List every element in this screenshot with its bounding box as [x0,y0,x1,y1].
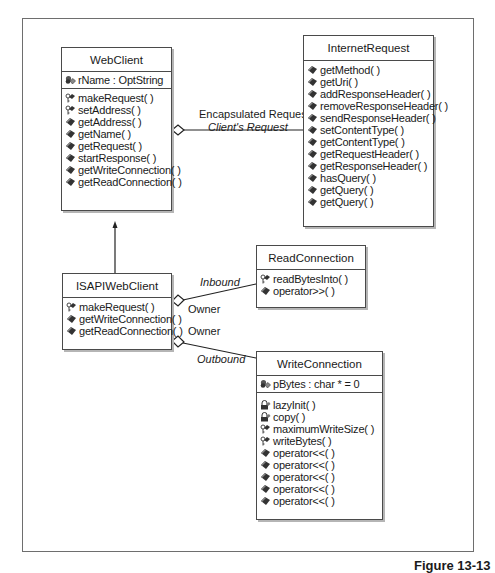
operation-row: setContentType( ) [307,124,430,136]
protected-operation-icon [66,302,77,312]
operation-row: operator<<( ) [260,459,379,471]
operation-row: getRequest( ) [65,140,168,152]
class-writeconnection[interactable]: WriteConnection pBytes : char * = 0 lazy… [256,351,383,520]
operation-row: readBytesInto( ) [260,273,362,285]
class-name: ISAPIWebClient [63,274,171,298]
operation-compartment: readBytesInto( ) operator>>( ) [257,270,365,300]
public-operation-icon [307,65,318,75]
class-readconnection[interactable]: ReadConnection readBytesInto( ) operator… [256,245,366,308]
operation-row: removeResponseHeader( ) [307,100,430,112]
operation-row: hasQuery( ) [307,172,430,184]
public-operation-icon [307,89,318,99]
public-operation-icon [307,137,318,147]
public-operation-icon [307,101,318,111]
public-operation-icon [66,326,77,336]
public-operation-icon [307,77,318,87]
operation-row: sendResponseHeader( ) [307,112,430,124]
public-operation-icon [307,149,318,159]
operation-row: getQuery( ) [307,184,430,196]
operation-row: getReadConnection( ) [65,176,168,188]
operation-row: operator<<( ) [260,483,379,495]
operation-row: copy( ) [260,411,379,423]
figure-caption: Figure 13-13 [414,558,491,573]
attribute-compartment: pBytes : char * = 0 [257,376,382,393]
public-operation-icon [65,141,76,151]
operation-row: getQuery( ) [307,196,430,208]
operation-row: getReadConnection( ) [66,325,168,337]
operation-row: getName( ) [65,128,168,140]
public-operation-icon [260,460,271,470]
public-operation-icon [307,113,318,123]
public-operation-icon [65,165,76,175]
operation-row: getAddress( ) [65,116,168,128]
public-operation-icon [65,153,76,163]
class-webclient[interactable]: WebClient rName : OptString makeRequest(… [61,47,172,211]
private-operation-icon [260,400,271,410]
protected-operation-icon [260,424,271,434]
operation-row: operator<<( ) [260,495,379,507]
operation-row: startResponse( ) [65,152,168,164]
inbound-owner-label: Owner [188,303,220,315]
protected-operation-icon [260,436,271,446]
class-name: InternetRequest [304,36,433,61]
private-attribute-icon [260,379,271,389]
class-isapiwebclient[interactable]: ISAPIWebClient makeRequest( ) getWriteCo… [62,273,172,350]
operation-row: getUri( ) [307,76,430,88]
protected-operation-icon [65,105,76,115]
outbound-role-label: Outbound [197,353,245,365]
protected-operation-icon [260,274,271,284]
public-operation-icon [260,286,271,296]
outbound-owner-label: Owner [188,325,220,337]
operation-row: getMethod( ) [307,64,430,76]
public-operation-icon [65,129,76,139]
class-name: ReadConnection [257,246,365,270]
operation-row: writeBytes( ) [260,435,379,447]
operation-row: getWriteConnection( ) [66,313,168,325]
operation-row: addResponseHeader( ) [307,88,430,100]
public-operation-icon [65,117,76,127]
operation-row: operator>>( ) [260,285,362,297]
public-operation-icon [307,173,318,183]
inbound-role-label: Inbound [200,276,240,288]
class-name: WebClient [62,48,171,72]
operation-row: getResponseHeader( ) [307,160,430,172]
public-operation-icon [307,197,318,207]
class-internetrequest[interactable]: InternetRequest getMethod( ) getUri( ) a… [303,35,434,227]
private-attribute-icon [65,75,76,85]
association-role-label: Client's Request [208,121,288,133]
operation-row: maximumWriteSize( ) [260,423,379,435]
operation-compartment: makeRequest( ) getWriteConnection( ) get… [63,298,171,340]
public-operation-icon [66,314,77,324]
operation-row: getRequestHeader( ) [307,148,430,160]
public-operation-icon [260,472,271,482]
protected-operation-icon [65,93,76,103]
operation-row: lazyInit( ) [260,399,379,411]
operation-compartment: getMethod( ) getUri( ) addResponseHeader… [304,61,433,211]
operation-row: getContentType( ) [307,136,430,148]
inheritance-arrow [113,221,118,273]
operation-compartment: lazyInit( ) copy( ) maximumWriteSize( ) … [257,393,382,510]
public-operation-icon [307,125,318,135]
public-operation-icon [65,177,76,187]
operation-row: getWriteConnection( ) [65,164,168,176]
attribute-row: rName : OptString [65,74,168,86]
operation-row: operator<<( ) [260,447,379,459]
operation-row: operator<<( ) [260,471,379,483]
public-operation-icon [260,448,271,458]
operation-row: makeRequest( ) [65,92,168,104]
attribute-compartment: rName : OptString [62,72,171,89]
operation-row: makeRequest( ) [66,301,168,313]
operation-row: setAddress( ) [65,104,168,116]
public-operation-icon [260,484,271,494]
public-operation-icon [307,185,318,195]
attribute-row: pBytes : char * = 0 [260,378,379,390]
public-operation-icon [307,161,318,171]
class-name: WriteConnection [257,352,382,376]
operation-compartment: makeRequest( ) setAddress( ) getAddress(… [62,89,171,191]
association-name-label: Encapsulated Request [199,108,310,120]
private-operation-icon [260,412,271,422]
public-operation-icon [260,496,271,506]
